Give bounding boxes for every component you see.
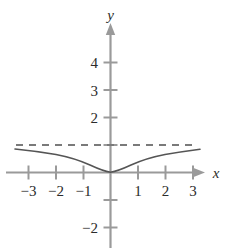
x-tick-label--2: −2 xyxy=(48,183,64,199)
y-axis-arrow xyxy=(106,23,115,35)
x-tick-label-2: 2 xyxy=(162,183,170,199)
x-tick-label--3: −3 xyxy=(21,183,37,199)
graph-figure: 4 3 2 −2 −3 −2 −1 1 2 3 y x xyxy=(0,0,232,251)
coordinate-plot: 4 3 2 −2 −3 −2 −1 1 2 3 y x xyxy=(0,0,232,251)
y-tick-label-4: 4 xyxy=(91,55,99,71)
y-tick-label-3: 3 xyxy=(91,83,99,99)
curve-path xyxy=(15,149,200,172)
x-axis-arrow xyxy=(193,168,205,177)
x-tick-label--1: −1 xyxy=(76,183,92,199)
x-tick-label-3: 3 xyxy=(189,183,197,199)
x-axis-label: x xyxy=(212,165,220,181)
y-axis-label: y xyxy=(105,7,114,23)
y-tick-label--2: −2 xyxy=(82,220,98,236)
x-tick-label-1: 1 xyxy=(134,183,142,199)
y-tick-label-2: 2 xyxy=(91,110,99,126)
